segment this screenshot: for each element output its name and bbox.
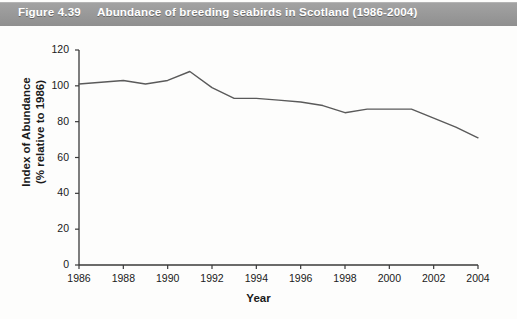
y-tick-label: 80: [35, 115, 69, 127]
x-tick-label: 2002: [414, 272, 454, 284]
y-tick-label: 0: [35, 258, 69, 270]
axes-group: [79, 50, 478, 265]
y-tick-label: 60: [35, 151, 69, 163]
x-tick-label: 1996: [281, 272, 321, 284]
y-tick-label: 40: [35, 186, 69, 198]
figure-number-label: Figure 4.39: [18, 5, 81, 18]
x-tick-label: 1994: [236, 272, 276, 284]
line-chart: Index of Abundance (% relative to 1986) …: [0, 26, 517, 319]
x-tick-label: 1988: [103, 272, 143, 284]
x-tick-label: 1998: [325, 272, 365, 284]
x-tick-label: 1990: [148, 272, 188, 284]
y-tick-label: 100: [35, 79, 69, 91]
y-tick-label: 20: [35, 222, 69, 234]
figure-caption-bar: Figure 4.39Abundance of breeding seabird…: [0, 2, 517, 26]
x-tick-label: 1986: [59, 272, 99, 284]
y-tick-label: 120: [35, 43, 69, 55]
figure-container: Figure 4.39Abundance of breeding seabird…: [0, 0, 517, 319]
x-tick-label: 2004: [458, 272, 498, 284]
x-tick-label: 2000: [369, 272, 409, 284]
x-tick-label: 1992: [192, 272, 232, 284]
figure-title-label: Abundance of breeding seabirds in Scotla…: [97, 5, 418, 18]
figure-caption-text: Figure 4.39Abundance of breeding seabird…: [18, 5, 417, 18]
data-series-line: [79, 72, 478, 138]
